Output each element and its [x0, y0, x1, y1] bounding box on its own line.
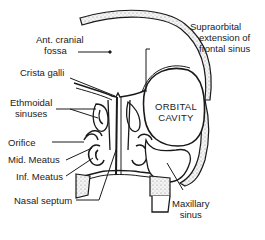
label-line: ORBITAL: [152, 101, 200, 112]
left-alveolus: [76, 174, 90, 198]
crista-galli: [74, 83, 146, 100]
label-mid-meatus: Mid. Meatus: [8, 154, 60, 165]
label-orifice: Orifice: [8, 137, 35, 148]
nasal-septum: [116, 97, 121, 175]
label-line: extension of: [190, 32, 250, 43]
label-orbital-cavity: ORBITAL CAVITY: [152, 101, 200, 123]
label-nasal-septum: Nasal septum: [14, 195, 72, 206]
label-ethmoidal-sinuses: Ethmoidal sinuses: [10, 97, 52, 119]
label-line: Maxillary: [172, 198, 209, 209]
leader-inf-meatus: [66, 158, 93, 176]
middle-turbinates: [84, 131, 152, 140]
label-line: sinus: [172, 209, 209, 220]
label-line: sinuses: [10, 108, 52, 119]
label-line: fossa: [36, 45, 84, 56]
label-line: CAVITY: [152, 112, 200, 123]
label-line: Ethmoidal: [10, 97, 52, 108]
ethmoid-cells-right: [127, 100, 140, 150]
right-alveolus: [150, 176, 170, 212]
label-line: Supraorbital: [190, 21, 250, 32]
label-crista-galli: Crista galli: [20, 67, 64, 78]
inferior-turbinates: [89, 145, 148, 165]
label-inf-meatus: Inf. Meatus: [16, 171, 63, 182]
label-line: Ant. cranial: [36, 34, 84, 45]
label-line: frontal sinus: [190, 43, 250, 54]
label-supraorbital-extension: Supraorbital extension of frontal sinus: [190, 21, 250, 54]
label-maxillary-sinus: Maxillary sinus: [172, 198, 209, 220]
ethmoid-cells-left: [93, 100, 110, 150]
label-ant-cranial-fossa: Ant. cranial fossa: [36, 34, 84, 56]
